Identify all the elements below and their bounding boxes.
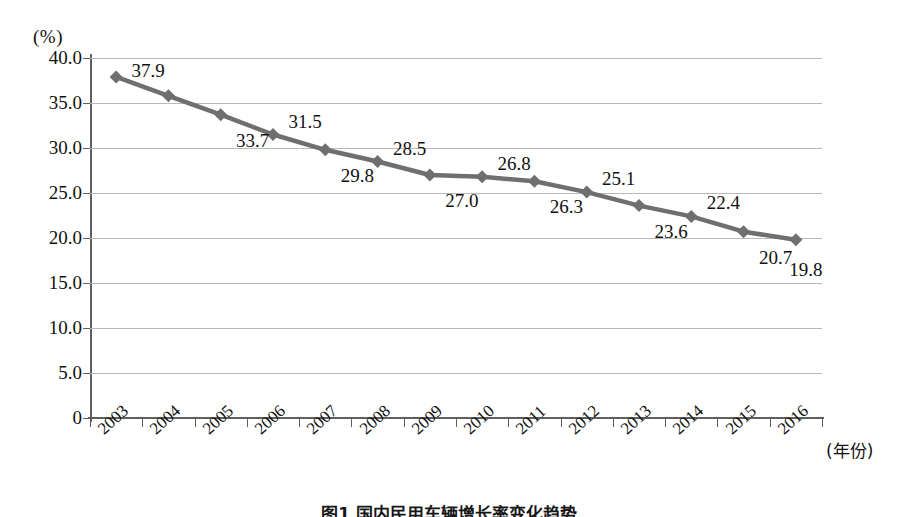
x-tick-mark <box>613 419 614 427</box>
y-axis-unit-label: (%) <box>33 26 63 48</box>
y-tick-label: 25.0 <box>49 182 82 204</box>
x-tick-mark <box>717 419 718 427</box>
data-point-label: 25.1 <box>602 168 635 190</box>
y-tick-label: 5.0 <box>58 362 82 384</box>
x-tick-mark <box>90 419 91 427</box>
y-tick-mark <box>83 193 90 194</box>
y-tick-mark <box>83 148 90 149</box>
y-tick-mark <box>83 373 90 374</box>
gridline <box>90 238 822 239</box>
y-tick-label: 40.0 <box>49 47 82 69</box>
x-tick-mark <box>299 419 300 427</box>
gridline <box>90 103 822 104</box>
data-point-label: 29.8 <box>341 165 374 187</box>
gridline <box>90 148 822 149</box>
x-tick-mark <box>142 419 143 427</box>
y-tick-mark <box>83 103 90 104</box>
data-point-label: 26.3 <box>550 196 583 218</box>
y-tick-label: 30.0 <box>49 137 82 159</box>
data-point-label: 31.5 <box>288 111 321 133</box>
gridline <box>90 328 822 329</box>
y-tick-mark <box>83 58 90 59</box>
x-tick-mark <box>247 419 248 427</box>
x-tick-mark <box>770 419 771 427</box>
y-tick-mark <box>83 418 90 419</box>
y-tick-label: 20.0 <box>49 227 82 249</box>
x-tick-mark <box>561 419 562 427</box>
data-point-label: 20.7 <box>759 247 792 269</box>
data-point-label: 33.7 <box>236 130 269 152</box>
y-axis-labels: 05.010.015.020.025.030.035.040.0 <box>24 58 82 418</box>
figure-caption: 图1 国内民用车辆增长率变化趋势 <box>0 500 898 517</box>
data-point-label: 27.0 <box>445 190 478 212</box>
y-tick-label: 15.0 <box>49 272 82 294</box>
y-tick-mark <box>83 328 90 329</box>
x-tick-mark <box>351 419 352 427</box>
y-tick-label: 0 <box>73 407 83 429</box>
data-point-label: 37.9 <box>132 60 165 82</box>
y-tick-label: 10.0 <box>49 317 82 339</box>
data-point-label: 28.5 <box>393 138 426 160</box>
gridline <box>90 373 822 374</box>
x-tick-mark <box>508 419 509 427</box>
x-axis-title: (年份) <box>826 437 873 462</box>
plot-area <box>90 58 822 418</box>
y-tick-mark <box>83 238 90 239</box>
chart-page: (%) 05.010.015.020.025.030.035.040.0 (年份… <box>0 0 898 517</box>
gridline <box>90 58 822 59</box>
gridline <box>90 283 822 284</box>
x-tick-mark <box>822 419 823 427</box>
x-tick-mark <box>456 419 457 427</box>
x-tick-mark <box>665 419 666 427</box>
data-point-label: 23.6 <box>654 221 687 243</box>
data-point-label: 22.4 <box>707 192 740 214</box>
x-tick-mark <box>404 419 405 427</box>
x-tick-mark <box>195 419 196 427</box>
y-tick-label: 35.0 <box>49 92 82 114</box>
data-point-label: 26.8 <box>498 153 531 175</box>
y-tick-mark <box>83 283 90 284</box>
data-point-label: 19.8 <box>789 259 822 281</box>
